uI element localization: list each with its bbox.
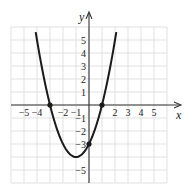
y-tick-label: −1 [75, 113, 86, 124]
x-axis-label: x [175, 108, 182, 122]
x-tick-label: 4 [139, 107, 144, 118]
y-tick-label: 3 [81, 61, 86, 72]
x-tick-label: 5 [152, 107, 157, 118]
intercept-point [99, 102, 104, 107]
y-tick-label: −3 [75, 139, 86, 150]
x-tick-label: −4 [32, 107, 43, 118]
y-tick-label: 2 [81, 74, 86, 85]
y-tick-label: 4 [81, 48, 86, 59]
x-tick-label: −2 [58, 107, 69, 118]
x-tick-label: 2 [113, 107, 118, 118]
x-tick-label: 3 [126, 107, 131, 118]
y-tick-label: −2 [75, 126, 86, 137]
x-tick-label: −5 [19, 107, 30, 118]
y-tick-label: −5 [75, 165, 86, 176]
y-tick-label: 5 [81, 35, 86, 46]
parabola-chart: −5−4−2−1234554321−1−2−3−5 x y [0, 0, 190, 193]
y-tick-label: 1 [81, 87, 86, 98]
y-axis-label: y [78, 10, 85, 24]
intercept-point [47, 102, 52, 107]
intercept-point [86, 141, 91, 146]
